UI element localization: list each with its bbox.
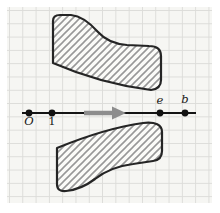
axis-label-1: 1 [48, 116, 55, 128]
axis-label-e: e [157, 95, 164, 107]
axis-label-O: O [24, 116, 33, 128]
diagram-svg [0, 0, 220, 213]
arrow-head [112, 107, 126, 120]
direction-arrow-icon [84, 107, 126, 120]
upper-region-outline [53, 15, 161, 90]
upper-hatched-region [53, 15, 161, 90]
lower-region-outline [57, 123, 162, 191]
lower-hatched-region [57, 123, 162, 191]
point-dot-e [157, 110, 164, 117]
point-dot-b [182, 110, 189, 117]
figure-canvas: { "figure": { "kind": "number-line-diagr… [0, 0, 220, 213]
axis-label-b: b [181, 94, 188, 106]
